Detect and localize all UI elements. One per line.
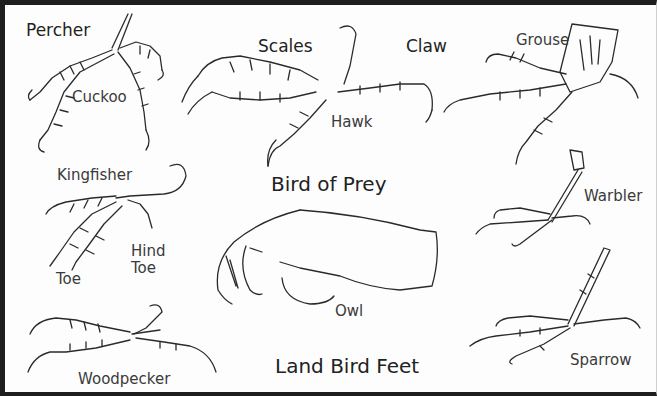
- label-grouse: Grouse: [516, 33, 569, 48]
- label-owl: Owl: [335, 304, 363, 319]
- bird-feet-illustrations: [0, 0, 657, 396]
- sparrow-foot-drawing: [470, 248, 640, 364]
- label-sparrow: Sparrow: [570, 353, 631, 368]
- label-hawk: Hawk: [331, 115, 372, 130]
- label-cuckoo: Cuckoo: [72, 90, 127, 105]
- label-woodpecker: Woodpecker: [78, 372, 170, 387]
- label-claw: Claw: [406, 38, 447, 55]
- label-percher: Percher: [26, 22, 90, 39]
- label-hind-toe: Hind Toe: [131, 243, 165, 278]
- label-warbler: Warbler: [584, 189, 642, 204]
- owl-foot-drawing: [217, 210, 437, 304]
- label-toe: Toe: [56, 272, 81, 287]
- warbler-foot-drawing: [476, 150, 590, 246]
- woodpecker-foot-drawing: [28, 305, 216, 372]
- label-kingfisher: Kingfisher: [57, 168, 132, 183]
- label-bird-of-prey: Bird of Prey: [271, 174, 386, 194]
- label-scales: Scales: [258, 38, 313, 55]
- diagram-title: Land Bird Feet: [275, 356, 419, 376]
